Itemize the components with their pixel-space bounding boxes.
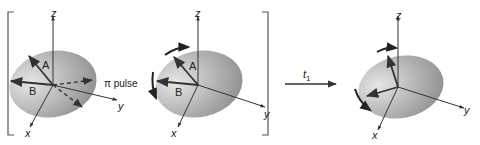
vector-a-label: A xyxy=(42,59,50,71)
ellipse xyxy=(352,48,449,127)
x-axis-label: x xyxy=(24,127,31,139)
left-bracket xyxy=(8,12,14,135)
z-axis-label: z xyxy=(395,9,402,21)
x-axis-label: x xyxy=(170,127,177,139)
panel-before-pulse: z y x A B π pulse xyxy=(3,7,138,139)
pi-pulse-label: π pulse xyxy=(104,78,138,89)
y-axis-label: y xyxy=(117,100,125,112)
y-axis-label: y xyxy=(463,104,471,116)
ellipse xyxy=(149,43,249,126)
vector-b-label: B xyxy=(29,85,36,97)
x-axis-label: x xyxy=(371,129,378,141)
t1-label: t1 xyxy=(303,68,311,83)
rotation-arrow-left-icon xyxy=(152,72,156,98)
rotation-arrow-top-icon xyxy=(165,47,188,55)
relaxation-diagram: z y x A B π pulse z y x A B t1 z xyxy=(0,0,480,145)
rotation-arrow-top-icon xyxy=(377,48,396,52)
t1-transition: t1 xyxy=(285,68,336,84)
y-axis-label: y xyxy=(263,108,271,120)
z-axis-label: z xyxy=(50,7,57,19)
vector-a-label: A xyxy=(189,60,197,72)
z-axis-label: z xyxy=(194,7,201,19)
vector-b-label: B xyxy=(175,86,182,98)
panel-after-t1: z y x xyxy=(352,9,471,141)
panel-after-pulse: z y x A B xyxy=(149,7,271,139)
